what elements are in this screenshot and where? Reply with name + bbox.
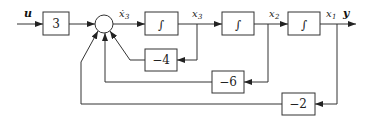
feedback-gain-block-minus6: −6 — [212, 71, 244, 93]
x2-label: x 2 — [269, 8, 280, 21]
block-diagram: u 3 ẋ 3 ∫ x 3 ∫ x 2 ∫ x 1 y — [0, 0, 373, 125]
minus4-to-sum-arrow — [110, 31, 145, 60]
svg-text:−4: −4 — [152, 53, 170, 67]
svg-text:3: 3 — [198, 13, 203, 21]
integrator-block-3: ∫ — [288, 12, 320, 35]
svg-text:1: 1 — [332, 13, 336, 21]
x3-label: x 3 — [192, 8, 203, 21]
svg-text:−6: −6 — [219, 75, 237, 89]
svg-text:−2: −2 — [289, 97, 307, 111]
summing-junction — [95, 15, 113, 33]
svg-text:3: 3 — [125, 13, 130, 21]
gain-block-3: 3 — [43, 12, 69, 35]
feedback-gain-block-minus4: −4 — [145, 49, 177, 71]
gain-3-label: 3 — [52, 17, 60, 31]
x1-label: x 1 — [326, 8, 336, 21]
output-label-y: y — [342, 7, 351, 20]
integral-icon: ∫ — [235, 18, 242, 32]
integral-icon: ∫ — [158, 18, 165, 32]
integrator-block-2: ∫ — [222, 12, 254, 35]
integral-icon: ∫ — [301, 18, 308, 32]
input-label-u: u — [24, 7, 32, 20]
feedback-gain-block-minus2: −2 — [282, 93, 315, 115]
svg-text:2: 2 — [274, 13, 280, 21]
x3-dot-label: ẋ 3 — [119, 8, 130, 21]
x3-feedback-line — [177, 24, 197, 60]
minus2-to-sum-arrow — [81, 31, 282, 104]
x1-feedback-line — [315, 24, 337, 104]
integrator-block-1: ∫ — [145, 12, 178, 35]
